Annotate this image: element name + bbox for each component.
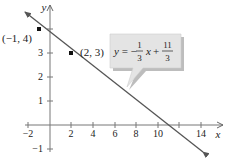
svg-text:x: x: [145, 45, 151, 57]
svg-text:1: 1: [38, 95, 43, 106]
svg-text:6: 6: [113, 128, 118, 139]
svg-text:4: 4: [91, 128, 96, 139]
svg-text:−1: −1: [32, 143, 43, 154]
svg-text:3: 3: [137, 53, 142, 63]
y-axis-label: y: [41, 1, 47, 13]
point-label-neg1-4: (−1, 4): [2, 32, 32, 45]
svg-text:−2: −2: [23, 128, 34, 139]
y-tick-labels: −1 1 2 3: [32, 47, 43, 154]
svg-text:2: 2: [38, 71, 43, 82]
equation-callout: y = − 1 3 x + 11 3: [110, 34, 184, 90]
data-point-2-3: [69, 51, 73, 55]
svg-text:+: +: [153, 45, 159, 57]
svg-text:3: 3: [38, 47, 43, 58]
line-chart: −2 2 4 6 8 10 14 −1 1 2 3 x y y = − 1 3 …: [0, 0, 231, 163]
svg-text:8: 8: [134, 128, 139, 139]
svg-text:3: 3: [165, 53, 170, 63]
x-axis-label: x: [215, 128, 221, 140]
svg-text:2: 2: [69, 128, 74, 139]
point-label-2-3: (2, 3): [80, 46, 104, 59]
svg-text:14: 14: [196, 128, 206, 139]
svg-text:11: 11: [163, 40, 172, 50]
svg-text:1: 1: [137, 40, 142, 50]
svg-text:10: 10: [153, 128, 163, 139]
data-point-neg1-4: [37, 27, 41, 31]
svg-text:y = −: y = −: [113, 45, 137, 57]
